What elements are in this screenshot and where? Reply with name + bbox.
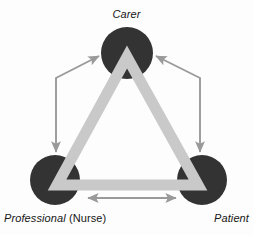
node-label-carer: Carer xyxy=(0,9,253,20)
node-label-patient-text: Patient xyxy=(214,212,249,224)
arrow-patient-carer[interactable] xyxy=(156,56,200,152)
node-label-patient: Patient xyxy=(0,213,249,224)
triad-relationship-diagram: Carer Professional (Nurse) Patient xyxy=(0,0,253,235)
diagram-canvas xyxy=(0,0,253,235)
node-label-carer-text: Carer xyxy=(112,8,140,20)
